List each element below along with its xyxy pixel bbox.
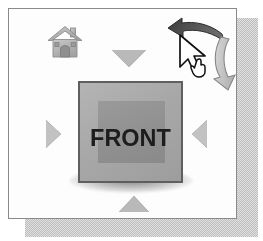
screenshot-root: FRONT	[0, 0, 263, 241]
nav-arrow-top[interactable]	[112, 50, 146, 67]
nav-arrow-right[interactable]	[192, 120, 207, 148]
cursor-hand-icon	[177, 33, 219, 79]
nav-arrow-left[interactable]	[46, 120, 61, 148]
view-cube[interactable]: FRONT	[78, 81, 183, 183]
nav-arrow-bottom[interactable]	[119, 196, 149, 212]
home-icon[interactable]	[45, 23, 85, 63]
view-cube-face-label: FRONT	[79, 127, 182, 150]
view-navigation-panel: FRONT	[8, 8, 237, 219]
